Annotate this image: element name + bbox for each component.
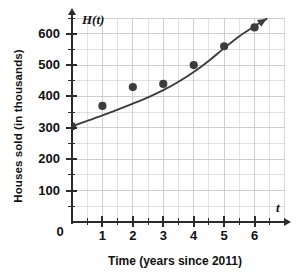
y-tick-major [66, 64, 77, 66]
x-tick-major [193, 216, 195, 227]
x-tick-major [101, 216, 103, 227]
x-tick-label: 3 [151, 228, 175, 243]
y-tick-label: 500 [24, 57, 60, 72]
x-tick-minor [148, 218, 149, 225]
y-axis-variable-label: H(t) [82, 12, 104, 28]
chart-figure: 100200300400500600 123456 0 Houses sold … [0, 0, 302, 277]
y-tick-minor [68, 143, 75, 144]
x-tick-minor [117, 218, 118, 225]
y-tick-major [66, 33, 77, 35]
x-tick-label: 6 [243, 228, 267, 243]
y-tick-minor [68, 206, 75, 207]
y-tick-label: 300 [24, 120, 60, 135]
x-tick-minor [208, 218, 209, 225]
y-axis-line [71, 14, 73, 224]
y-tick-major [66, 95, 77, 97]
y-tick-label: 100 [24, 183, 60, 198]
x-tick-minor [269, 218, 270, 225]
origin-label: 0 [52, 224, 68, 239]
y-tick-label: 400 [24, 88, 60, 103]
x-tick-major [162, 216, 164, 227]
x-tick-minor [239, 218, 240, 225]
y-tick-minor [68, 174, 75, 175]
fitted-curve-layer [72, 19, 267, 127]
x-tick-minor [178, 218, 179, 225]
x-axis-variable-label: t [276, 200, 280, 216]
y-axis-title: Houses sold (in thousands) [12, 26, 24, 226]
y-tick-major [66, 127, 77, 129]
x-tick-major [254, 216, 256, 227]
grid-minor-lines [72, 18, 285, 222]
y-tick-major [66, 158, 77, 160]
x-axis-arrow-icon [284, 218, 291, 226]
x-tick-major [132, 216, 134, 227]
chart-canvas [72, 18, 285, 222]
y-tick-label: 600 [24, 26, 60, 41]
y-tick-minor [68, 49, 75, 50]
x-tick-minor [87, 218, 88, 225]
y-tick-minor [68, 80, 75, 81]
y-tick-minor [68, 112, 75, 113]
x-tick-label: 5 [212, 228, 236, 243]
x-tick-label: 1 [90, 228, 114, 243]
plot-area [72, 18, 285, 222]
y-axis-arrow-icon [68, 8, 76, 15]
y-tick-major [66, 190, 77, 192]
x-tick-label: 4 [182, 228, 206, 243]
x-tick-label: 2 [121, 228, 145, 243]
x-tick-major [223, 216, 225, 227]
y-tick-label: 200 [24, 151, 60, 166]
y-tick-minor [68, 18, 75, 19]
data-points-layer [72, 23, 259, 130]
x-axis-title: Time (years since 2011) [60, 254, 290, 268]
